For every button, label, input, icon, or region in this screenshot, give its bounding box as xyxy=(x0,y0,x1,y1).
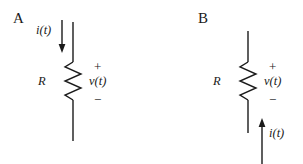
resistor-label-b: R xyxy=(213,75,221,88)
current-arrowhead-b xyxy=(259,118,266,127)
polarity-minus-a: − xyxy=(94,93,101,106)
current-arrowhead-a xyxy=(59,44,66,53)
polarity-minus-b: − xyxy=(269,93,276,106)
resistor-label-a: R xyxy=(38,75,46,88)
polarity-plus-a: + xyxy=(94,60,101,73)
current-label-b: i(t) xyxy=(269,127,284,140)
circuit-drawing-a xyxy=(0,0,152,164)
resistor-symbol-b xyxy=(240,62,256,100)
voltage-label-b: v(t) xyxy=(264,75,281,88)
voltage-label-a: v(t) xyxy=(89,75,106,88)
polarity-plus-b: + xyxy=(269,60,276,73)
circuit-panel-a: A i(t) R + v(t) − xyxy=(0,0,152,164)
resistor-symbol-a xyxy=(65,62,81,100)
circuit-figure: A i(t) R + v(t) − B xyxy=(0,0,303,164)
circuit-panel-b: B R + v(t) − i(t) xyxy=(151,0,303,164)
current-label-a: i(t) xyxy=(36,24,51,37)
